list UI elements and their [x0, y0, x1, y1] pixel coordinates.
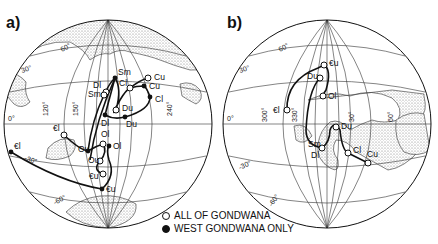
pole-label: €l	[14, 141, 21, 151]
lat-label: -60°	[267, 193, 280, 208]
pole-marker-open	[345, 150, 351, 156]
pole-marker-filled	[107, 144, 112, 149]
pole-label: Cu	[149, 81, 160, 91]
pole-marker-open	[127, 85, 133, 91]
pole-label: Du	[341, 121, 352, 131]
pole-label: Sm	[88, 89, 101, 99]
pole-marker-open	[113, 107, 119, 113]
pole-label: Cl	[155, 94, 163, 104]
legend-item-west-gondwana: WEST GONDWANA ONLY	[162, 222, 294, 235]
pole-label: Ou	[88, 155, 100, 165]
pole-marker-open	[101, 92, 107, 98]
pole-marker-filled	[103, 113, 108, 118]
pole-marker-open	[321, 62, 327, 68]
pole-marker-filled	[100, 187, 105, 192]
pole-marker-open	[61, 132, 67, 138]
pole-label: €l	[53, 123, 60, 133]
open-circle-icon	[162, 212, 170, 220]
lon-label: 150°	[72, 101, 79, 116]
lat-label: -60°	[52, 194, 67, 206]
pole-marker-open	[317, 75, 323, 81]
graticule-b	[223, 20, 431, 228]
pole-marker-filled	[148, 95, 153, 100]
lon-label: 60°	[387, 111, 394, 122]
pole-label: €u	[89, 171, 99, 181]
lon-label: 240°	[166, 101, 173, 116]
lat-label: 60°	[59, 42, 72, 53]
pole-label: Cl	[353, 145, 361, 155]
filled-circle-icon	[162, 225, 170, 233]
pole-label: €u	[329, 58, 339, 68]
pole-marker-open	[333, 124, 339, 130]
pole-marker-open	[100, 171, 106, 177]
pole-label: Ol	[101, 129, 110, 139]
figure-canvas: 60° 30° 0° -30° -60° 120° 150° 240°	[0, 0, 438, 244]
pole-marker-open	[365, 160, 371, 166]
lat-label: 0°	[227, 115, 234, 122]
pole-label: Sm	[118, 67, 131, 77]
legend-label: ALL OF GONDWANA	[174, 209, 271, 222]
lat-label: 30°	[238, 64, 250, 74]
pole-marker-open	[100, 141, 106, 147]
legend-label: WEST GONDWANA ONLY	[174, 222, 294, 235]
lon-label: 300°	[261, 107, 268, 122]
pole-label: Ol	[328, 91, 337, 101]
lat-label: 60°	[277, 42, 290, 53]
pole-label: Cl	[119, 78, 127, 88]
pole-label: Sm	[308, 139, 321, 149]
pole-marker-filled	[9, 150, 14, 155]
pole-label: Dl	[101, 118, 109, 128]
lon-label: 330°	[291, 107, 298, 122]
pole-marker-filled	[113, 76, 118, 81]
pole-marker-open	[284, 107, 290, 113]
pole-label: Ou	[78, 144, 90, 154]
lon-label: 120°	[42, 101, 49, 116]
pole-label: Ol	[113, 141, 122, 151]
pole-label: €l	[273, 105, 280, 115]
lat-label: -30°	[237, 159, 252, 171]
pole-label: Du	[126, 119, 137, 129]
pole-marker-filled	[142, 84, 147, 89]
pole-label: Dl	[311, 150, 319, 160]
legend-item-all-gondwana: ALL OF GONDWANA	[162, 209, 294, 222]
legend: ALL OF GONDWANA WEST GONDWANA ONLY	[162, 209, 294, 235]
globe-b: 60° 30° 0° -30° -60° 300° 330° 30° 60°	[223, 20, 431, 228]
pole-label: Du	[122, 103, 133, 113]
lat-label: 0°	[8, 115, 15, 122]
pole-marker-open	[320, 93, 326, 99]
pole-label: €u	[106, 184, 116, 194]
pole-label: Cu	[367, 149, 378, 159]
apw-paths-a	[11, 78, 150, 189]
pole-label: Du	[307, 71, 318, 81]
